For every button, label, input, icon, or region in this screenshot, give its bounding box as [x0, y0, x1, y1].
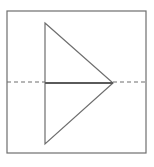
diagram-canvas — [0, 0, 154, 167]
